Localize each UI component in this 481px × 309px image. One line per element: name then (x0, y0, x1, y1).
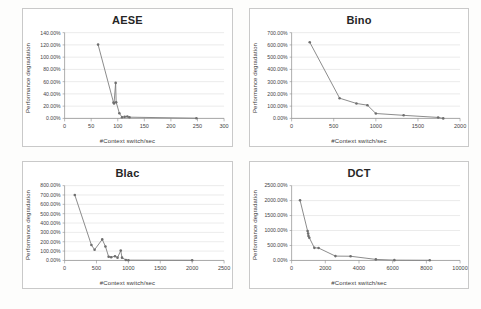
svg-text:0: 0 (290, 265, 293, 271)
svg-text:700.00%: 700.00% (40, 192, 61, 198)
chart-panel-dct: DCT Performance degradation #Context swi… (241, 155, 481, 309)
svg-text:1500: 1500 (412, 123, 424, 129)
svg-text:10000: 10000 (452, 265, 467, 271)
svg-text:4000: 4000 (353, 265, 365, 271)
svg-text:2000: 2000 (186, 265, 198, 271)
svg-text:400.00%: 400.00% (267, 66, 288, 72)
svg-text:2500: 2500 (218, 265, 230, 271)
svg-text:250: 250 (193, 123, 202, 129)
svg-text:8000: 8000 (420, 265, 432, 271)
svg-text:300: 300 (219, 123, 228, 129)
svg-text:0: 0 (63, 123, 66, 129)
svg-text:700.00%: 700.00% (267, 30, 288, 36)
figure-page: AESE Performance degradation #Context sw… (0, 0, 481, 309)
svg-text:600.00%: 600.00% (40, 201, 61, 207)
svg-text:0.00%: 0.00% (273, 257, 288, 263)
svg-text:1500.00%: 1500.00% (264, 212, 288, 218)
svg-text:500.00%: 500.00% (267, 242, 288, 248)
svg-text:500: 500 (329, 123, 338, 129)
svg-text:120.00%: 120.00% (40, 42, 61, 48)
svg-text:400.00%: 400.00% (40, 220, 61, 226)
chart-frame-dct: DCT Performance degradation #Context swi… (249, 161, 469, 289)
svg-text:50: 50 (88, 123, 94, 129)
plot-area-dct: 0.00%500.00%1000.00%1500.00%2000.00%2500… (250, 162, 468, 288)
svg-text:1500: 1500 (154, 265, 166, 271)
svg-text:20.00%: 20.00% (43, 103, 61, 109)
svg-text:140.00%: 140.00% (40, 30, 61, 36)
svg-text:1000: 1000 (122, 265, 134, 271)
chart-frame-blac: Blac Performance degradation #Context sw… (22, 161, 233, 289)
chart-grid: AESE Performance degradation #Context sw… (0, 0, 481, 309)
svg-text:2000: 2000 (454, 123, 466, 129)
plot-area-blac: 0.00%100.00%200.00%300.00%400.00%500.00%… (23, 162, 232, 288)
svg-text:300.00%: 300.00% (40, 229, 61, 235)
chart-panel-blac: Blac Performance degradation #Context sw… (0, 155, 241, 309)
svg-text:2000.00%: 2000.00% (264, 197, 288, 203)
svg-text:80.00%: 80.00% (43, 66, 61, 72)
svg-text:200.00%: 200.00% (267, 91, 288, 97)
svg-text:200: 200 (166, 123, 175, 129)
svg-text:500: 500 (92, 265, 101, 271)
svg-text:200.00%: 200.00% (40, 239, 61, 245)
plot-area-aese: 0.00%20.00%40.00%60.00%80.00%100.00%120.… (23, 9, 232, 146)
svg-text:2000: 2000 (319, 265, 331, 271)
svg-text:100.00%: 100.00% (267, 103, 288, 109)
svg-text:800.00%: 800.00% (40, 183, 61, 189)
svg-text:40.00%: 40.00% (43, 91, 61, 97)
chart-frame-bino: Bino Performance degradation #Context sw… (249, 8, 469, 147)
svg-text:500.00%: 500.00% (40, 211, 61, 217)
chart-frame-aese: AESE Performance degradation #Context sw… (22, 8, 233, 147)
svg-text:6000: 6000 (387, 265, 399, 271)
svg-text:0.00%: 0.00% (46, 115, 61, 121)
svg-text:0.00%: 0.00% (273, 115, 288, 121)
svg-text:100.00%: 100.00% (40, 54, 61, 60)
svg-text:100.00%: 100.00% (40, 248, 61, 254)
svg-text:0: 0 (63, 265, 66, 271)
svg-text:150: 150 (140, 123, 149, 129)
svg-text:1000: 1000 (370, 123, 382, 129)
svg-text:2500.00%: 2500.00% (264, 183, 288, 189)
svg-text:1000.00%: 1000.00% (264, 227, 288, 233)
plot-area-bino: 0.00%100.00%200.00%300.00%400.00%500.00%… (250, 9, 468, 146)
svg-text:500.00%: 500.00% (267, 54, 288, 60)
svg-text:600.00%: 600.00% (267, 42, 288, 48)
svg-text:60.00%: 60.00% (43, 79, 61, 85)
svg-text:100: 100 (113, 123, 122, 129)
svg-text:0.00%: 0.00% (46, 257, 61, 263)
svg-text:0: 0 (290, 123, 293, 129)
chart-panel-aese: AESE Performance degradation #Context sw… (0, 0, 241, 155)
svg-text:300.00%: 300.00% (267, 79, 288, 85)
chart-panel-bino: Bino Performance degradation #Context sw… (241, 0, 481, 155)
